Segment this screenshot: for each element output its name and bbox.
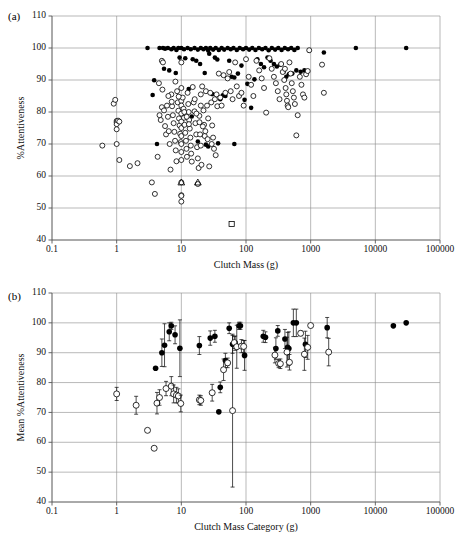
data-point-open-circle bbox=[100, 143, 105, 148]
data-point-open-circle bbox=[249, 82, 254, 87]
data-point-open-circle bbox=[305, 69, 310, 74]
data-point-open-circle bbox=[211, 146, 216, 151]
y-tick-label: 50 bbox=[37, 466, 47, 476]
data-point-open-circle bbox=[183, 130, 188, 135]
data-point-open-circle bbox=[198, 143, 203, 148]
data-point-open-circle bbox=[151, 445, 157, 451]
data-point-open-circle bbox=[203, 129, 208, 134]
data-point-open-circle bbox=[184, 114, 189, 119]
data-point-open-circle bbox=[156, 81, 161, 86]
data-point-open-circle bbox=[184, 146, 189, 151]
x-axis-title: Clutch Mass (g) bbox=[214, 259, 278, 271]
data-point-filled-circle bbox=[273, 346, 279, 352]
panel-b: (b) 4050607080901001100.1110100100010000… bbox=[0, 280, 457, 553]
panel-a-plot: 4050607080901001100.11101001000100001000… bbox=[0, 0, 457, 280]
data-point-open-circle bbox=[213, 153, 218, 158]
x-tick-label: 100000 bbox=[426, 244, 455, 254]
data-point-open-circle bbox=[298, 330, 304, 336]
data-point-open-circle bbox=[282, 78, 287, 83]
panel-a: (a) 4050607080901001100.1110100100010000… bbox=[0, 0, 457, 280]
data-point-open-circle bbox=[164, 103, 169, 108]
data-point-open-circle bbox=[251, 94, 256, 99]
data-point-open-circle bbox=[284, 98, 289, 103]
data-point-open-circle bbox=[228, 89, 233, 94]
data-point-filled-circle bbox=[183, 56, 188, 61]
data-point-filled-circle bbox=[324, 325, 330, 331]
series-open-circle-mean bbox=[114, 323, 332, 488]
data-point-open-circle bbox=[302, 95, 307, 100]
y-tick-label: 60 bbox=[37, 170, 47, 180]
x-tick-label: 1 bbox=[114, 506, 119, 516]
data-point-filled-circle bbox=[238, 323, 244, 329]
data-point-open-circle bbox=[271, 74, 276, 79]
data-point-open-circle bbox=[167, 142, 172, 147]
data-point-filled-circle bbox=[249, 106, 254, 111]
data-point-open-circle bbox=[149, 180, 154, 185]
data-point-open-circle bbox=[195, 156, 200, 161]
data-point-filled-circle bbox=[162, 342, 168, 348]
data-point-open-circle bbox=[198, 103, 203, 108]
panel-b-plot: 4050607080901001100.11101001000100001000… bbox=[0, 280, 457, 553]
data-point-open-circle bbox=[189, 151, 194, 156]
data-point-filled-circle bbox=[242, 353, 248, 359]
data-point-open-circle bbox=[145, 427, 151, 433]
data-point-open-circle bbox=[135, 161, 140, 166]
data-point-filled-circle bbox=[252, 77, 257, 82]
y-tick-label: 90 bbox=[37, 74, 47, 84]
data-point-open-circle bbox=[257, 68, 262, 73]
data-point-open-circle bbox=[262, 86, 267, 91]
data-point-open-circle bbox=[184, 154, 189, 159]
data-point-filled-circle bbox=[239, 63, 244, 68]
data-point-open-circle bbox=[277, 97, 282, 102]
data-point-open-circle bbox=[321, 90, 326, 95]
data-point-filled-circle bbox=[215, 57, 220, 62]
data-point-open-circle bbox=[179, 86, 184, 91]
x-axis-title: Clutch Mass Category (g) bbox=[194, 521, 298, 533]
data-point-open-circle bbox=[267, 56, 272, 61]
data-point-open-circle bbox=[294, 133, 299, 138]
data-point-open-circle bbox=[295, 113, 300, 118]
figure-container: (a) 4050607080901001100.1110100100010000… bbox=[0, 0, 457, 553]
x-tick-label: 10 bbox=[177, 244, 187, 254]
y-tick-label: 110 bbox=[32, 287, 46, 297]
data-point-open-circle bbox=[200, 124, 205, 129]
data-point-open-circle bbox=[305, 344, 311, 350]
data-point-open-circle bbox=[168, 167, 173, 172]
data-point-open-circle bbox=[208, 90, 213, 95]
data-point-open-circle bbox=[219, 103, 224, 108]
data-point-open-circle bbox=[264, 110, 269, 115]
data-point-open-circle bbox=[155, 154, 160, 159]
data-point-filled-circle bbox=[197, 343, 203, 349]
x-tick-label: 100000 bbox=[426, 506, 455, 516]
data-point-open-circle bbox=[212, 97, 217, 102]
x-tick-label: 10000 bbox=[363, 244, 387, 254]
data-point-open-circle bbox=[169, 99, 174, 104]
data-point-filled-circle bbox=[159, 350, 165, 356]
x-tick-label: 1000 bbox=[301, 244, 320, 254]
data-point-filled-circle bbox=[354, 46, 359, 51]
data-point-open-circle bbox=[244, 57, 249, 62]
data-point-open-circle bbox=[225, 76, 230, 81]
data-point-open-circle bbox=[299, 82, 304, 87]
data-point-open-circle bbox=[198, 397, 204, 403]
data-point-filled-circle bbox=[166, 329, 172, 335]
y-tick-label: 80 bbox=[37, 106, 47, 116]
data-point-open-circle bbox=[160, 60, 165, 65]
y-tick-label: 70 bbox=[37, 407, 47, 417]
data-point-open-circle bbox=[162, 108, 167, 113]
y-tick-label: 40 bbox=[37, 234, 47, 244]
x-tick-label: 10000 bbox=[363, 506, 387, 516]
data-point-open-circle bbox=[209, 142, 214, 147]
data-point-open-circle bbox=[273, 81, 278, 86]
data-point-open-circle bbox=[291, 95, 296, 100]
data-point-filled-circle bbox=[212, 333, 218, 339]
data-point-filled-circle bbox=[295, 46, 300, 51]
y-tick-label: 100 bbox=[32, 317, 47, 327]
data-point-filled-circle bbox=[202, 71, 207, 76]
y-tick-label: 90 bbox=[37, 347, 47, 357]
data-point-open-circle bbox=[127, 164, 132, 169]
data-point-filled-circle bbox=[155, 142, 160, 147]
panel-b-label: (b) bbox=[8, 290, 21, 302]
x-tick-label: 0.1 bbox=[46, 244, 58, 254]
data-point-open-circle bbox=[198, 92, 203, 97]
